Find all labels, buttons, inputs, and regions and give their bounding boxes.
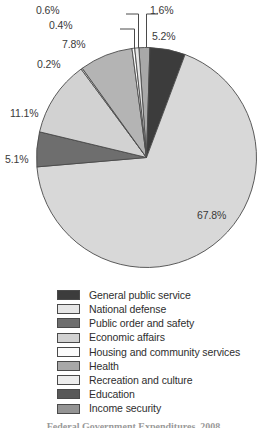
leader-line-housing [120,29,135,49]
legend-item: Income security [57,402,257,416]
pie-percentage-label: 67.8% [197,209,226,221]
pie-percentage-label: 7.8% [62,38,86,50]
leader-line-national-defense [126,14,139,48]
legend-item-label: Education [89,389,135,400]
legend-swatch-icon [57,361,80,371]
legend-swatch-icon [57,404,80,414]
pie-chart-figure: Health 1.6%General public service 5.2%In… [0,0,267,428]
pie-svg: Health 1.6%General public service 5.2%In… [0,0,267,276]
legend-item-label: National defense [89,304,166,315]
pie-slice-group: Health 1.6%General public service 5.2%In… [37,47,257,267]
legend-swatch-icon [57,318,80,328]
legend-swatch-icon [57,304,80,314]
legend-item: Public order and safety [57,316,257,330]
legend-item-label: Public order and safety [89,318,194,329]
legend-item: National defense [57,302,257,316]
pie-percentage-label: 11.1% [10,107,39,119]
legend-item: Health [57,359,257,373]
pie-percentage-label: 0.6% [36,4,60,16]
legend-item: Recreation and culture [57,373,257,387]
legend-item-label: Recreation and culture [89,375,192,386]
legend-swatch-icon [57,375,80,385]
pie-percentage-label: 0.2% [37,58,61,70]
legend-swatch-icon [57,347,80,357]
legend-item-label: Health [89,361,119,372]
legend-item: Housing and community services [57,345,257,359]
pie-percentage-label: 1.6% [150,4,174,16]
legend-item-label: Economic affairs [89,332,165,343]
figure-caption: Federal Government Expenditures, 2008 [0,421,267,428]
pie-plot-area: Health 1.6%General public service 5.2%In… [0,0,267,276]
legend-item: General public service [57,288,257,302]
pie-percentage-label: 5.1% [5,153,29,165]
legend-item-label: Income security [89,403,161,414]
legend-item: Economic affairs [57,331,257,345]
legend-item-label: General public service [89,290,191,301]
legend-swatch-icon [57,333,80,343]
legend-swatch-icon [57,290,80,300]
pie-percentage-label: 5.2% [152,30,176,42]
legend-item-label: Housing and community services [89,347,240,358]
legend-item: Education [57,387,257,401]
pie-percentage-label: 0.4% [49,19,73,31]
legend-swatch-icon [57,389,80,399]
chart-legend: General public serviceNational defensePu… [57,288,257,416]
